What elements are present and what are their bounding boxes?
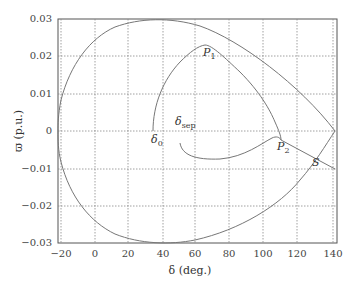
x-tick: 120: [287, 248, 306, 259]
x-tick-labels: −20 0 20 40 60 80 100 120 140: [50, 248, 342, 259]
annotation-delta0: δ0: [151, 133, 163, 148]
y-tick: −0.03: [21, 237, 52, 248]
y-axis-label: ϖ (p.u.): [12, 110, 25, 152]
y-tick: −0.02: [21, 200, 52, 211]
x-axis-label: δ (deg.): [169, 264, 212, 277]
x-tick: 40: [157, 248, 170, 259]
x-tick: 60: [189, 248, 202, 259]
y-tick: 0.02: [30, 50, 52, 61]
x-tick: 80: [223, 248, 236, 259]
annotation-s: S: [312, 156, 320, 169]
trajectory-curve: [153, 45, 335, 169]
y-tick: 0: [46, 125, 52, 136]
x-tick: 140: [323, 248, 342, 259]
y-tick: 0.01: [30, 88, 52, 99]
x-tick: 20: [122, 248, 135, 259]
phase-plane-chart: 0.03 0.02 0.01 0 −0.01 −0.02 −0.03 −20 0…: [0, 0, 352, 294]
grid: [58, 19, 337, 243]
y-tick: −0.01: [21, 163, 52, 174]
y-tick: 0.03: [30, 13, 52, 24]
annotation-delta-sep: δsep: [175, 115, 196, 130]
y-tick-labels: 0.03 0.02 0.01 0 −0.01 −0.02 −0.03: [21, 13, 52, 248]
x-tick: 0: [92, 248, 98, 259]
annotation-p2: P2: [276, 140, 290, 155]
annotations: P1 P2 δ0 δsep S: [151, 46, 320, 169]
x-tick: −20: [50, 248, 71, 259]
x-tick: 100: [253, 248, 272, 259]
